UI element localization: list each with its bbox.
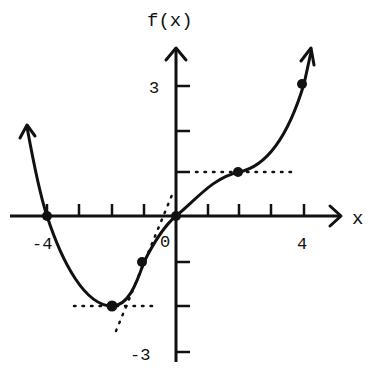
x-tick-label-neg4: -4 [32,235,52,254]
point-neg2-neg2 [107,301,118,312]
point-0-0 [171,211,181,221]
point-2-1 [233,167,243,177]
function-graph: f(x) x -4 0 4 3 -3 [0,0,370,369]
x-tick-label-zero: 0 [160,233,170,252]
y-axis-label: f(x) [147,10,193,32]
x-tick-label-pos4: 4 [297,235,307,254]
x-axis-label: x [352,208,363,230]
point-4-3 [297,79,307,89]
point-neg4-0 [42,211,52,221]
y-tick-label-neg3: -3 [130,346,150,365]
y-tick-label-pos3: 3 [149,79,159,98]
function-curve [27,52,311,306]
point-neg1-neg1 [137,257,147,267]
